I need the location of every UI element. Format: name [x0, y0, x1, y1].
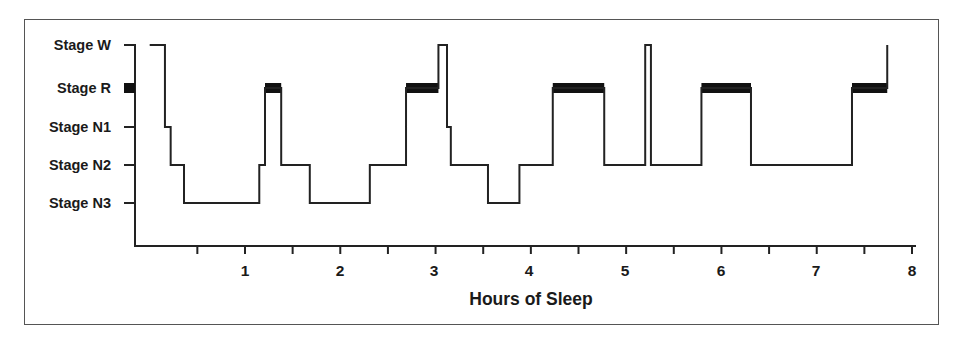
- x-tick-label-2: 2: [336, 262, 345, 279]
- x-tick-label-3: 3: [430, 262, 439, 279]
- axes: [124, 44, 916, 254]
- x-tick-label-1: 1: [241, 262, 250, 279]
- hypnogram-chart: Stage W Stage R Stage N1 Stage N2 Stage …: [0, 0, 953, 344]
- y-label-stage-w: Stage W: [54, 37, 112, 53]
- x-tick-label-7: 7: [812, 262, 821, 279]
- y-label-stage-n1: Stage N1: [49, 119, 111, 135]
- x-axis-title: Hours of Sleep: [469, 289, 593, 309]
- y-label-stage-n2: Stage N2: [49, 157, 111, 173]
- x-tick-label-5: 5: [621, 262, 630, 279]
- y-label-stage-r: Stage R: [57, 80, 112, 96]
- x-tick-label-6: 6: [717, 262, 726, 279]
- y-label-stage-n3: Stage N3: [49, 195, 111, 211]
- x-tick-label-4: 4: [525, 262, 534, 279]
- y-tick-rem-marker: [124, 83, 135, 93]
- hypnogram-line: [150, 45, 888, 203]
- x-axis-tick-labels: 1 2 3 4 5 6 7 8: [241, 262, 917, 279]
- x-tick-label-8: 8: [908, 262, 917, 279]
- y-axis-labels: Stage W Stage R Stage N1 Stage N2 Stage …: [49, 37, 112, 211]
